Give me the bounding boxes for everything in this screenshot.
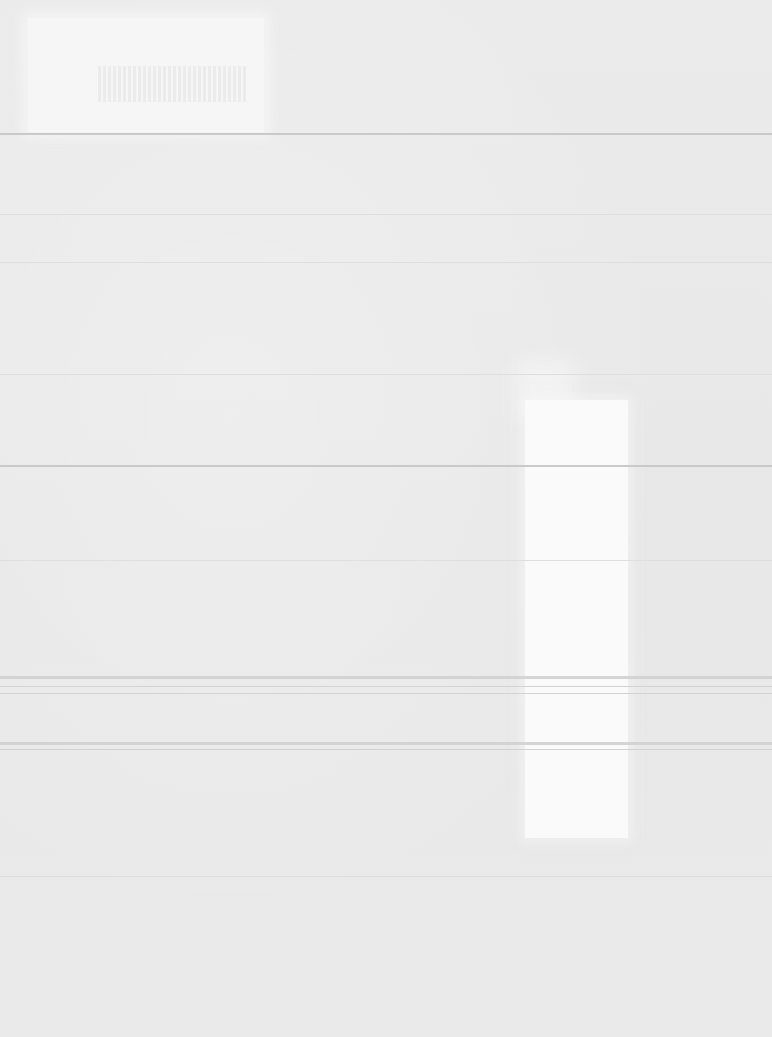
horizontal-rule [0, 676, 772, 679]
horizontal-rule [0, 876, 772, 877]
illegible-text-block [98, 66, 248, 102]
horizontal-rule [0, 686, 772, 687]
horizontal-rule [0, 133, 772, 135]
horizontal-rule [0, 374, 772, 375]
horizontal-rule [0, 262, 772, 263]
horizontal-rule [0, 749, 772, 750]
horizontal-rule [0, 465, 772, 467]
bright-patch-top-left [28, 18, 264, 132]
horizontal-rule [0, 214, 772, 215]
horizontal-rule [0, 693, 772, 694]
horizontal-rule [0, 742, 772, 745]
scanned-page [0, 0, 772, 1037]
horizontal-rule [0, 560, 772, 561]
